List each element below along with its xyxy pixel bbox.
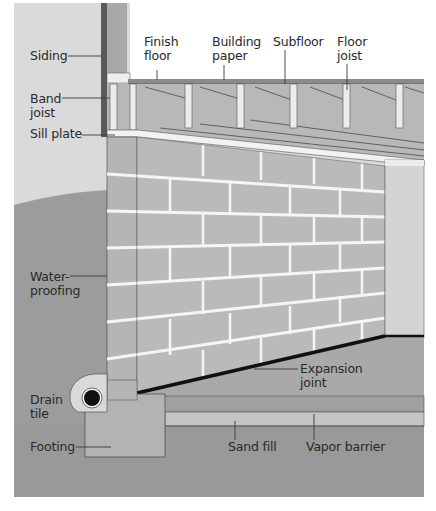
label-waterproofing: Water- proofing (30, 270, 80, 298)
exterior-sheathing (107, 3, 127, 75)
sand-fill-layer (165, 412, 424, 426)
siding (101, 3, 107, 137)
ground-base (14, 425, 424, 497)
basement-cross-section-diagram (0, 0, 436, 511)
label-expansion-joint: Expansion joint (300, 362, 363, 390)
label-building-paper: Building paper (212, 35, 261, 63)
label-subfloor: Subfloor (273, 35, 324, 49)
label-footing: Footing (30, 440, 75, 454)
label-vapor-barrier: Vapor barrier (306, 440, 385, 454)
slab-edge (137, 396, 424, 412)
label-drain-tile: Drain tile (30, 393, 63, 421)
label-sand-fill: Sand fill (228, 440, 276, 454)
label-sill-plate: Sill plate (30, 127, 82, 141)
label-band-joist: Band joist (30, 92, 61, 120)
label-siding: Siding (30, 49, 67, 63)
label-finish-floor: Finish floor (144, 35, 178, 63)
label-floor-joist: Floor joist (337, 35, 367, 63)
interior-side-wall (385, 160, 424, 338)
subfloor (128, 79, 424, 84)
